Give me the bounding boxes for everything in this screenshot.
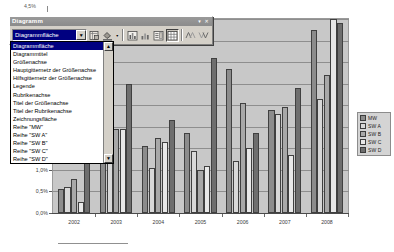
legend-item[interactable]: SW C xyxy=(359,138,389,146)
bar[interactable] xyxy=(295,88,301,213)
bar[interactable] xyxy=(253,133,259,213)
bar-group[interactable] xyxy=(264,19,306,213)
bar-group[interactable] xyxy=(306,19,348,213)
dropdown-item[interactable]: Reihe "SW A" xyxy=(11,131,103,139)
scroll-down-icon[interactable]: ▼ xyxy=(104,154,113,163)
legend-icon xyxy=(153,30,164,41)
format-object-button[interactable] xyxy=(88,29,100,42)
bar[interactable] xyxy=(330,19,336,213)
legend-swatch xyxy=(360,123,366,129)
chart-legend[interactable]: MWSW ASW BSW CSW D xyxy=(357,112,391,156)
chart-object-dropdown-list[interactable]: DiagrammflächeDiagrammtitelGrößenachseHa… xyxy=(10,41,114,164)
chart-type-dropdown-arrow[interactable] xyxy=(139,29,151,42)
dropdown-items[interactable]: DiagrammflächeDiagrammtitelGrößenachseHa… xyxy=(11,42,103,163)
bar[interactable] xyxy=(317,99,323,213)
bar[interactable] xyxy=(155,138,161,213)
legend-item[interactable]: MW xyxy=(359,114,389,122)
minimize-icon[interactable]: ▾ xyxy=(196,18,203,25)
bar[interactable] xyxy=(233,161,239,213)
bar[interactable] xyxy=(282,107,288,213)
dropdown-item[interactable]: Größenachse xyxy=(11,58,103,66)
bar[interactable] xyxy=(107,157,113,213)
toolbar-title: Diagramm xyxy=(12,17,196,26)
bar[interactable] xyxy=(142,146,148,213)
data-table-button[interactable] xyxy=(166,29,179,42)
toolbar-titlebar[interactable]: Diagramm ▾ ✕ xyxy=(10,17,212,26)
chart-object-combobox-value: Diagrammfläche xyxy=(13,30,76,40)
bar[interactable] xyxy=(191,151,197,214)
dropdown-item[interactable]: Reihe "SW C" xyxy=(11,147,103,155)
bar-group[interactable] xyxy=(137,19,179,213)
dropdown-item[interactable]: Diagrammtitel xyxy=(11,50,103,58)
bar[interactable] xyxy=(240,103,246,213)
bar[interactable] xyxy=(211,58,217,213)
bar[interactable] xyxy=(169,120,175,213)
chevron-down-icon[interactable]: ▼ xyxy=(76,30,86,40)
close-icon[interactable]: ✕ xyxy=(203,18,210,25)
dropdown-item[interactable]: Titel der Größenachse xyxy=(11,99,103,107)
bar[interactable] xyxy=(204,166,210,213)
bar[interactable] xyxy=(197,170,203,213)
dropdown-item[interactable]: Titel der Rubrikenachse xyxy=(11,107,103,115)
bar[interactable] xyxy=(126,84,132,213)
bar[interactable] xyxy=(311,30,317,213)
dropdown-item[interactable]: Hilfsgitternetz der Größenachse xyxy=(11,74,103,82)
legend-swatch xyxy=(360,147,366,153)
legend-item[interactable]: SW B xyxy=(359,130,389,138)
bar[interactable] xyxy=(268,110,274,213)
toolbar-separator-2 xyxy=(181,29,183,41)
bar[interactable] xyxy=(184,133,190,213)
chart-object-combobox[interactable]: Diagrammfläche ▼ xyxy=(12,29,87,41)
x-axis-tick-label: 2002 xyxy=(59,219,89,225)
bar[interactable] xyxy=(78,202,84,213)
bar[interactable] xyxy=(275,114,281,213)
scroll-up-icon[interactable]: ▲ xyxy=(104,42,113,51)
bar-chart-small-icon xyxy=(140,30,151,41)
axis-top-tick xyxy=(47,6,48,12)
bar[interactable] xyxy=(226,69,232,213)
dropdown-scrollbar[interactable]: ▲ ▼ xyxy=(103,42,113,163)
bar[interactable] xyxy=(64,187,70,213)
dropdown-item[interactable]: Reihe "SW B" xyxy=(11,139,103,147)
dropdown-item[interactable]: Rubrikenachse xyxy=(11,91,103,99)
bar[interactable] xyxy=(324,75,330,213)
legend-label: SW C xyxy=(368,139,381,145)
x-axis-tick-label: 2008 xyxy=(312,219,342,225)
bar[interactable] xyxy=(71,179,77,213)
bar[interactable] xyxy=(58,189,64,213)
chart-type-icon xyxy=(127,30,138,41)
axis-top-label: 4,5% xyxy=(24,3,36,9)
fill-color-dropdown-arrow[interactable]: ▾ xyxy=(115,29,121,41)
legend-item[interactable]: SW A xyxy=(359,122,389,130)
chart-type-button[interactable] xyxy=(126,29,138,42)
dropdown-item[interactable]: Zeichnungsfläche xyxy=(11,115,103,123)
bar[interactable] xyxy=(149,168,155,213)
x-axis-tick xyxy=(348,214,349,217)
y-axis-tick-label: 1,0% xyxy=(20,167,48,173)
fill-color-button[interactable] xyxy=(101,29,113,42)
dropdown-item[interactable]: Diagrammfläche xyxy=(11,42,103,50)
data-table-icon xyxy=(167,30,178,41)
bar[interactable] xyxy=(246,148,252,213)
series-by-column-icon xyxy=(198,30,209,41)
legend-item[interactable]: SW D xyxy=(359,146,389,154)
x-axis-tick xyxy=(306,214,307,217)
bar[interactable] xyxy=(337,23,343,213)
bar-group[interactable] xyxy=(222,19,264,213)
x-axis-tick xyxy=(95,214,96,217)
by-column-button[interactable] xyxy=(198,29,210,42)
dropdown-item[interactable]: Reihe "SW D" xyxy=(11,155,103,163)
bar[interactable] xyxy=(288,155,294,213)
by-row-button[interactable] xyxy=(185,29,197,42)
dropdown-item[interactable]: Hauptgitternetz der Größenachse xyxy=(11,66,103,74)
legend-toggle-button[interactable] xyxy=(152,29,164,42)
dropdown-item[interactable]: Reihe "MW" xyxy=(11,123,103,131)
x-axis-line xyxy=(52,213,349,214)
bar[interactable] xyxy=(162,142,168,213)
x-axis-tick xyxy=(264,214,265,217)
legend-swatch xyxy=(360,115,366,121)
dropdown-item[interactable]: Legende xyxy=(11,82,103,90)
bar[interactable] xyxy=(120,129,126,213)
bar-group[interactable] xyxy=(179,19,221,213)
bar[interactable] xyxy=(113,129,119,213)
